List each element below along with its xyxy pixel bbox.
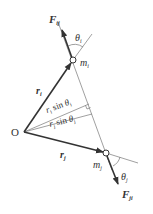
label-m-j: mj (93, 159, 102, 171)
label-theta-j: θj (121, 171, 128, 183)
force-F-ij (62, 30, 72, 58)
mass-i-point (70, 57, 76, 63)
angle-arc-theta-i (68, 44, 83, 47)
origin-label: O (11, 126, 19, 138)
rj-extension-line (106, 153, 138, 163)
label-F-ji: Fji (121, 188, 133, 201)
angle-arc-theta-j (113, 157, 120, 166)
force-F-ji (107, 156, 118, 184)
label-theta-i: θi (75, 32, 82, 44)
mass-j-point (103, 150, 109, 156)
label-m-i: mi (80, 57, 89, 69)
label-r-i: ri (36, 85, 42, 97)
force-moment-diagram: O Fij Fji θi θj mi mj ri rj ri sin θi rj… (0, 0, 153, 214)
label-r-j: rj (60, 149, 66, 161)
label-F-ij: Fij (48, 13, 60, 26)
label-rj-sin-thetaj: rj sin θj (48, 113, 76, 130)
